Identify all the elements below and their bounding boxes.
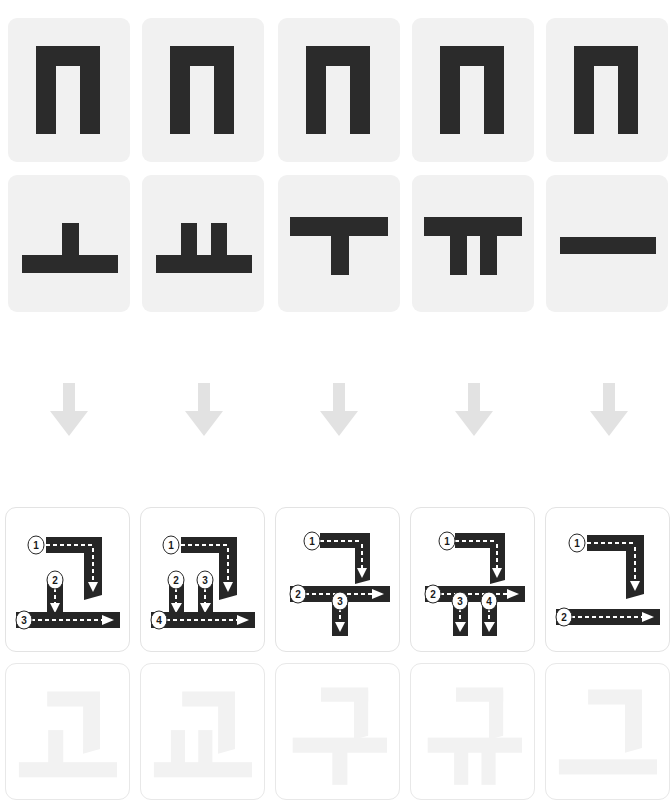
trace-card-gyu[interactable] [410, 663, 535, 800]
trace-card-geu[interactable] [545, 663, 670, 800]
stroke-number-badge: 1 [33, 540, 39, 551]
stroke-number-badge: 2 [52, 575, 58, 586]
stroke-number-badge: 4 [156, 615, 162, 626]
arrow-down-cell-3 [316, 381, 362, 439]
consonant-tile-3[interactable] [278, 18, 400, 162]
trace-card-go[interactable] [5, 663, 130, 800]
stroke-number-badge: 1 [309, 536, 315, 547]
stroke-card-geu[interactable]: 1 2 [545, 507, 670, 652]
trace-glyph-gyo [141, 664, 264, 799]
trace-glyph-go [6, 664, 129, 799]
stroke-card-gu[interactable]: 1 2 3 [275, 507, 400, 652]
arrow-down-cell-4 [451, 381, 497, 439]
stroke-card-gyo[interactable]: 1 2 3 4 [140, 507, 265, 652]
consonant-tile-4[interactable] [412, 18, 534, 162]
stroke-card-go[interactable]: 1 2 3 [5, 507, 130, 652]
consonant-tile-1[interactable] [8, 18, 130, 162]
vowel-tile-1[interactable] [8, 175, 130, 312]
consonant-tile-5[interactable] [546, 18, 668, 162]
jamo-giyeok-glyph [546, 18, 668, 162]
stroke-number-badge: 3 [337, 596, 343, 607]
jamo-giyeok-glyph [142, 18, 264, 162]
jamo-yu-glyph [412, 175, 534, 312]
jamo-giyeok-glyph [8, 18, 130, 162]
trace-glyph-gu [276, 664, 399, 799]
stroke-diagram-gu: 1 2 3 [276, 508, 399, 651]
stroke-diagram-gyo: 1 2 3 4 [141, 508, 264, 651]
trace-glyph-geu [546, 664, 669, 799]
arrow-down-icon [46, 381, 92, 439]
stroke-diagram-go: 1 2 3 [6, 508, 129, 651]
consonant-tile-2[interactable] [142, 18, 264, 162]
arrow-down-cell-2 [181, 381, 227, 439]
stroke-number-badge: 2 [430, 589, 436, 600]
arrow-down-icon [181, 381, 227, 439]
jamo-giyeok-glyph [278, 18, 400, 162]
arrow-down-icon [586, 381, 632, 439]
stroke-number-badge: 3 [21, 615, 27, 626]
arrow-down-icon [316, 381, 362, 439]
stroke-number-badge: 3 [202, 575, 208, 586]
arrow-down-cell-1 [46, 381, 92, 439]
jamo-u-glyph [278, 175, 400, 312]
trace-card-gu[interactable] [275, 663, 400, 800]
vowel-tile-4[interactable] [412, 175, 534, 312]
jamo-giyeok-glyph [412, 18, 534, 162]
stroke-diagram-geu: 1 2 [546, 508, 669, 651]
stroke-number-badge: 2 [173, 575, 179, 586]
worksheet-root: 1 2 3 1 2 [0, 0, 670, 806]
vowel-tile-3[interactable] [278, 175, 400, 312]
stroke-number-badge: 2 [561, 612, 567, 623]
stroke-diagram-gyu: 1 2 3 4 [411, 508, 534, 651]
vowel-tile-2[interactable] [142, 175, 264, 312]
vowel-tile-5[interactable] [546, 175, 668, 312]
stroke-card-gyu[interactable]: 1 2 3 4 [410, 507, 535, 652]
stroke-number-badge: 1 [574, 538, 580, 549]
arrow-down-icon [451, 381, 497, 439]
stroke-number-badge: 4 [486, 596, 492, 607]
trace-card-gyo[interactable] [140, 663, 265, 800]
trace-glyph-gyu [411, 664, 534, 799]
stroke-number-badge: 1 [444, 536, 450, 547]
arrow-down-cell-5 [586, 381, 632, 439]
stroke-number-badge: 3 [457, 596, 463, 607]
stroke-number-badge: 1 [168, 540, 174, 551]
jamo-o-glyph [8, 175, 130, 312]
jamo-eu-glyph [546, 175, 668, 312]
stroke-number-badge: 2 [295, 589, 301, 600]
jamo-yo-glyph [142, 175, 264, 312]
